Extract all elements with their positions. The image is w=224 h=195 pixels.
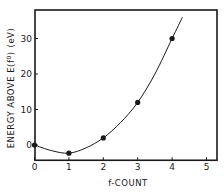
y-tick-label: 0 bbox=[26, 140, 32, 150]
x-axis-title: f-COUNT bbox=[108, 178, 148, 188]
y-tick-label: 10 bbox=[21, 105, 33, 115]
y-tick-label: 20 bbox=[21, 69, 33, 79]
data-point bbox=[66, 151, 71, 156]
y-axis-title: ENERGY ABOVE E(f0)(eV) bbox=[5, 28, 16, 149]
x-tick-label: 5 bbox=[204, 162, 210, 172]
chart: 012345 0102030 f-COUNT ENERGY ABOVE E(f0… bbox=[0, 0, 224, 195]
x-tick-label: 2 bbox=[100, 162, 106, 172]
x-tick-label: 4 bbox=[169, 162, 175, 172]
data-point bbox=[135, 100, 140, 105]
plot-frame bbox=[35, 10, 217, 160]
y-tick-label: 30 bbox=[21, 34, 33, 44]
x-tick-label: 0 bbox=[32, 162, 38, 172]
data-point bbox=[101, 135, 106, 140]
x-tick-label: 3 bbox=[135, 162, 141, 172]
data-point bbox=[32, 142, 37, 147]
y-axis-title-main: ENERGY ABOVE E(f bbox=[6, 59, 16, 148]
fit-curve bbox=[35, 17, 183, 153]
x-tick-label: 1 bbox=[66, 162, 72, 172]
data-point bbox=[170, 36, 175, 41]
y-axis-title-unit: (eV) bbox=[6, 28, 16, 48]
y-axis-title-close: ) bbox=[6, 51, 16, 55]
data-points bbox=[32, 36, 175, 156]
svg-text:ENERGY ABOVE E(f0)(eV): ENERGY ABOVE E(f0)(eV) bbox=[5, 28, 16, 149]
plot-border bbox=[35, 10, 217, 160]
